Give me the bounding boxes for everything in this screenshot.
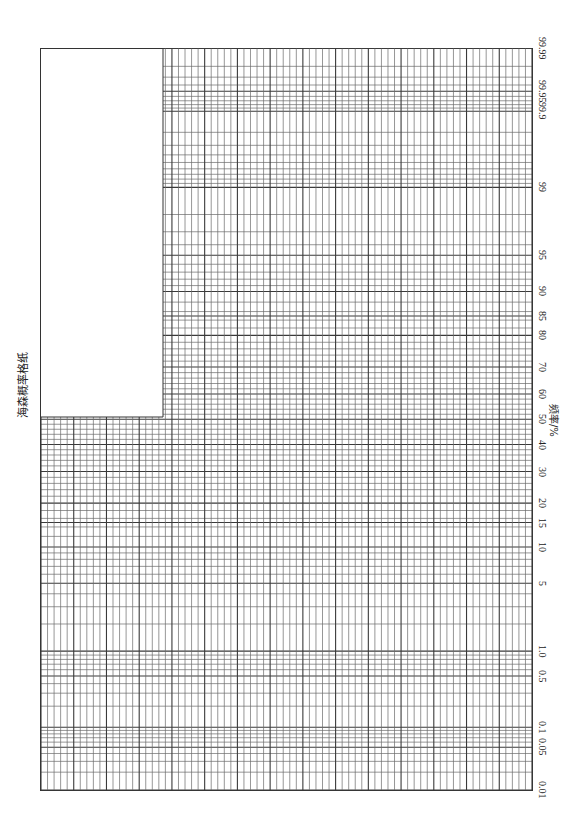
axis-title: 频率/% xyxy=(547,404,562,437)
tick-label: 40 xyxy=(537,440,548,450)
chart-title: 海森概率格纸 xyxy=(14,352,30,418)
tick-label: 99 xyxy=(537,182,548,192)
tick-label: 60 xyxy=(537,389,548,399)
tick-label: 95 xyxy=(537,250,548,260)
tick-label: 0.05 xyxy=(537,738,548,756)
tick-label: 85 xyxy=(537,311,548,321)
tick-label: 0.1 xyxy=(537,721,548,734)
tick-label: 5 xyxy=(537,581,548,586)
tick-label: 15 xyxy=(537,518,548,528)
grid-lines xyxy=(41,49,532,791)
tick-label: 10 xyxy=(537,542,548,552)
tick-label: 99.95 xyxy=(537,80,548,103)
tick-label: 99.9 xyxy=(537,102,548,120)
tick-label: 20 xyxy=(537,498,548,508)
tick-label: 99.99 xyxy=(537,37,548,60)
probability-paper xyxy=(0,0,584,840)
tick-label: 1.0 xyxy=(537,645,548,658)
tick-label: 70 xyxy=(537,362,548,372)
tick-label: 0.5 xyxy=(537,670,548,683)
tick-label: 30 xyxy=(537,467,548,477)
tick-label: 80 xyxy=(537,330,548,340)
tick-label: 90 xyxy=(537,286,548,296)
tick-label: 0.01 xyxy=(537,781,548,799)
